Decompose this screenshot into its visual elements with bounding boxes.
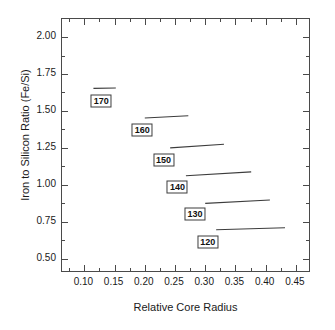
x-axis-title: Relative Core Radius [61,301,310,313]
x-axis-tick-label: 0.10 [74,276,93,287]
x-axis-tick-labels: 0.100.150.200.250.300.350.400.45 [61,274,310,290]
series-label-150: 150 [153,153,174,166]
series-label-170: 170 [91,94,112,107]
data-line-130 [205,200,270,203]
y-axis-tick-label: 1.50 [37,105,56,115]
x-axis-tick-label: 0.20 [134,276,153,287]
data-line-150 [170,144,224,148]
series-label-140: 140 [167,180,188,193]
x-axis-tick-label: 0.25 [164,276,183,287]
x-axis-tick-label: 0.40 [255,276,274,287]
y-axis-tick-label: 2.00 [37,31,56,41]
y-axis-tick-label: 1.00 [37,179,56,189]
series-label-160: 160 [132,124,153,137]
chart-figure: 0.500.751.001.251.501.752.00 17016015014… [0,0,335,330]
data-lines-svg [62,19,311,273]
y-axis-tick-label: 0.75 [37,216,56,226]
data-line-160 [145,116,189,118]
data-line-120 [216,228,285,230]
data-series-layer: 170160150140130120 [62,19,309,271]
x-axis-tick-label: 0.15 [104,276,123,287]
y-axis-title: Iron to Silicon Ratio (Fe/Si) [19,8,31,262]
y-axis-tick-label: 0.50 [37,253,56,263]
x-axis-tick-label: 0.30 [195,276,214,287]
y-axis-tick-label: 1.25 [37,142,56,152]
x-axis-tick-label: 0.35 [225,276,244,287]
plot-frame: 170160150140130120 [61,18,310,272]
data-line-140 [186,172,251,176]
x-axis-tick-label: 0.45 [285,276,304,287]
series-label-130: 130 [184,207,205,220]
series-label-120: 120 [197,235,218,248]
y-axis-tick-label: 1.75 [37,68,56,78]
